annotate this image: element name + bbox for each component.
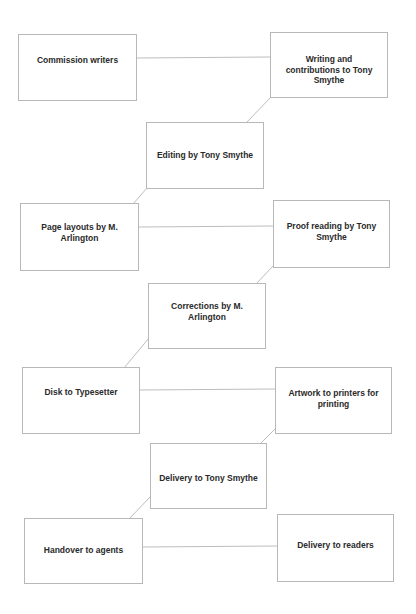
node-box: Disk to Typesetter [22, 367, 140, 434]
edge-n1-n2 [137, 57, 270, 58]
edge-n2-n3 [247, 97, 271, 122]
node-label: Artwork to printers for printing [276, 388, 391, 409]
edge-n5-n6 [256, 265, 274, 284]
edge-n3-n4 [133, 188, 147, 204]
node-label: Delivery to readers [278, 540, 393, 551]
node-box: Delivery to Tony Smythe [150, 443, 267, 509]
node-box: Delivery to readers [277, 514, 394, 582]
edge-n4-n5 [139, 226, 274, 227]
node-box: Writing and contributions to Tony Smythe [270, 32, 388, 98]
node-box: Page layouts by M. Arlington [20, 203, 139, 271]
node-label: Commission writers [19, 55, 136, 66]
node-label: Page layouts by M. Arlington [21, 222, 138, 243]
edge-n6-n7 [124, 338, 149, 368]
node-label: Delivery to Tony Smythe [151, 473, 266, 484]
node-label: Writing and contributions to Tony Smythe [271, 54, 387, 86]
node-box: Commission writers [18, 34, 137, 101]
node-box: Proof reading by Tony Smythe [273, 200, 390, 268]
node-box: Handover to agents [24, 518, 143, 584]
flowchart-diagram: Commission writersWriting and contributi… [0, 0, 416, 614]
node-box: Artwork to printers for printing [275, 367, 392, 434]
node-label: Handover to agents [25, 545, 142, 556]
node-box: Corrections by M. Arlington [148, 283, 266, 349]
edge-n7-n8 [140, 389, 276, 390]
node-box: Editing by Tony Smythe [146, 122, 264, 189]
node-label: Editing by Tony Smythe [147, 150, 263, 161]
edge-n10-n11 [143, 546, 278, 547]
node-label: Corrections by M. Arlington [149, 301, 265, 322]
node-label: Disk to Typesetter [23, 387, 139, 398]
edge-n9-n10 [130, 496, 151, 518]
node-label: Proof reading by Tony Smythe [274, 221, 389, 242]
edge-n8-n9 [261, 428, 276, 443]
